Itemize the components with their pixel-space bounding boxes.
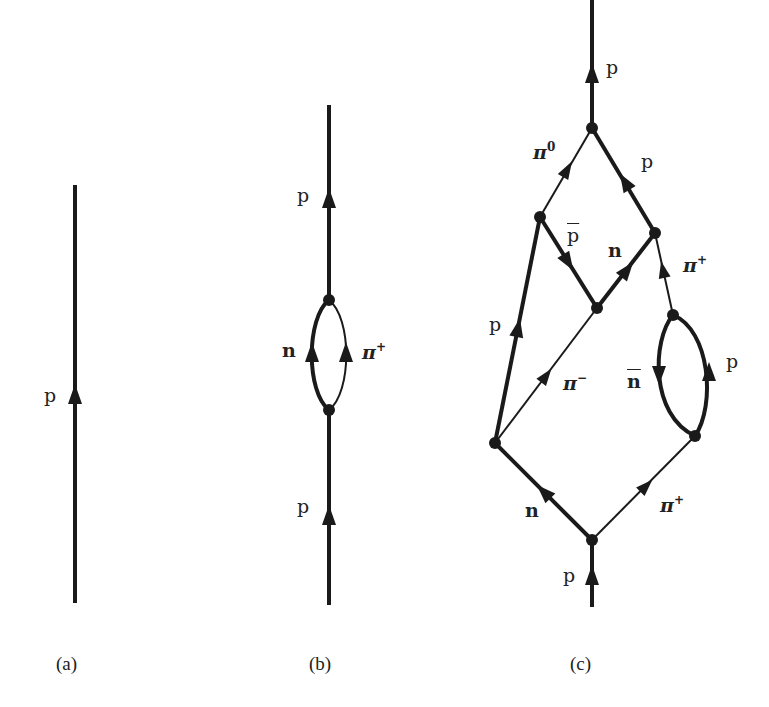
label-proton: p: [44, 386, 56, 405]
label-proton-loop: p: [726, 352, 738, 371]
vertex: [489, 437, 501, 449]
arrow-icon: [655, 260, 670, 279]
arrow-up-icon: [585, 565, 599, 585]
vertex: [667, 309, 679, 321]
label-neutron: n: [282, 341, 296, 360]
panel-c-diagram: [489, 0, 716, 607]
caption-b: (b): [309, 653, 331, 675]
caption-c: (c): [570, 653, 591, 675]
vertex: [323, 294, 335, 306]
vertex: [323, 404, 335, 416]
arrow-up-icon: [322, 505, 336, 525]
label-proton-lower: p: [297, 497, 309, 516]
vertex: [534, 211, 546, 223]
arrow-up-icon: [68, 384, 82, 404]
vertex: [591, 302, 603, 314]
vertex: [586, 534, 598, 546]
label-pi-plus-lower-right: π+: [660, 494, 684, 515]
arrow-up-icon: [585, 63, 599, 83]
arrow-up-icon: [339, 342, 353, 362]
label-pi-plus-right: π+: [683, 254, 707, 275]
antineutron-loop-arc: [659, 315, 695, 436]
arrow-up-icon: [305, 342, 319, 362]
label-proton-top: p: [606, 58, 618, 77]
vertex: [649, 227, 661, 239]
caption-a: (a): [56, 653, 77, 675]
arrow-down-icon: [652, 366, 666, 385]
label-proton-upper-right: p: [641, 152, 653, 171]
arrow-up-icon: [322, 188, 336, 208]
label-pi-zero: π0: [533, 141, 555, 162]
proton-loop-arc: [673, 315, 707, 436]
label-pi-minus: π−: [563, 372, 587, 393]
label-neutron-lower-left: n: [525, 501, 539, 520]
vertex: [586, 122, 598, 134]
label-neutron-middle: n: [608, 241, 622, 260]
vertex: [689, 430, 701, 442]
label-pi-plus: π+: [362, 341, 386, 362]
panel-b-diagram: [305, 105, 353, 605]
label-proton-upper: p: [297, 186, 309, 205]
arrow-icon: [558, 158, 577, 180]
label-antineutron: n: [627, 372, 641, 391]
label-proton-left: p: [489, 315, 501, 334]
label-proton-bottom: p: [563, 566, 575, 585]
feynman-diagram-figure: p p n π+ p p π0 p p n π+ p π− n p n π+ p…: [0, 0, 769, 707]
label-antiproton: p: [567, 226, 579, 245]
panel-a-diagram: [68, 185, 82, 603]
